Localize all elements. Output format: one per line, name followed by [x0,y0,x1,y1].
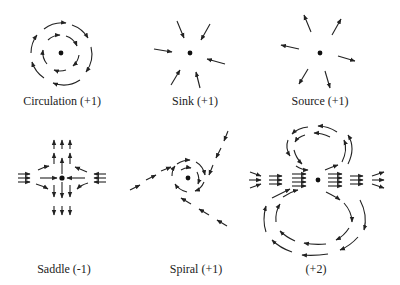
sink-label: Sink (+1) [172,94,218,109]
source-diagram [281,15,355,88]
sink-center-dot [188,51,193,56]
circulation-center-dot [59,51,64,56]
source-center-dot [318,51,323,56]
circulation-label: Circulation (+1) [23,94,101,109]
spiral-diagram [130,131,228,226]
double-loop-label: (+2) [306,262,327,277]
double-loop-center-dot [316,178,321,183]
spiral-label: Spiral (+1) [170,262,222,277]
double-loop-diagram [249,126,384,255]
source-label: Source (+1) [291,94,348,109]
singularity-diagrams [0,0,400,285]
saddle-label: Saddle (-1) [37,262,91,277]
saddle-center-dot [59,175,64,180]
spiral-center-dot [186,176,191,181]
